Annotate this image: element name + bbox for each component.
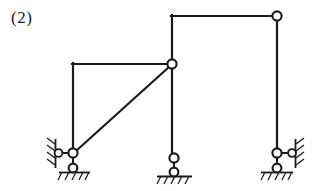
figure-root: (2)	[0, 0, 315, 191]
top-right-hinge	[272, 11, 281, 20]
left-wall-link-hinge	[55, 149, 63, 157]
left-wall-hatch	[47, 138, 55, 165]
right-wall-hatch	[296, 138, 304, 165]
right-support	[261, 138, 304, 180]
left-support-hinge	[68, 148, 77, 157]
frame-members	[72, 15, 277, 155]
central-hinge	[167, 59, 176, 68]
internal-hinges	[167, 11, 281, 68]
middle-support-hinge	[169, 153, 178, 162]
diagonal-brace	[76, 67, 169, 151]
right-ground-pin	[273, 164, 282, 173]
right-wall-link-hinge	[288, 149, 296, 157]
right-support-hinge	[272, 148, 281, 157]
structural-frame-diagram	[0, 0, 315, 191]
left-ground-pin	[69, 164, 78, 173]
middle-ground-pin	[170, 168, 179, 177]
middle-support	[157, 153, 192, 184]
